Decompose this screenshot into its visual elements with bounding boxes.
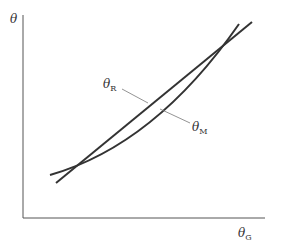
y-axis-label: θ	[10, 12, 18, 26]
theta-m-leader	[160, 109, 190, 123]
x-axis-label: θG	[238, 226, 252, 242]
theta-r-label: θR	[103, 77, 117, 93]
theta-m-curve	[50, 24, 239, 175]
theta-r-leader	[122, 89, 148, 103]
theta-m-label: θM	[192, 120, 207, 136]
diagram-canvas: θ θG θR θM	[0, 0, 284, 247]
